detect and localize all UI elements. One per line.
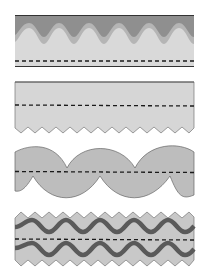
panel-3-fill	[15, 146, 194, 198]
panel-4	[15, 212, 194, 266]
panel-2-fill	[15, 82, 194, 133]
panel-1	[15, 15, 194, 67]
panel-3	[15, 146, 194, 198]
panel-2	[15, 82, 194, 133]
panel-1-dark-wave-layer	[15, 15, 194, 37]
figure-canvas	[0, 0, 203, 278]
